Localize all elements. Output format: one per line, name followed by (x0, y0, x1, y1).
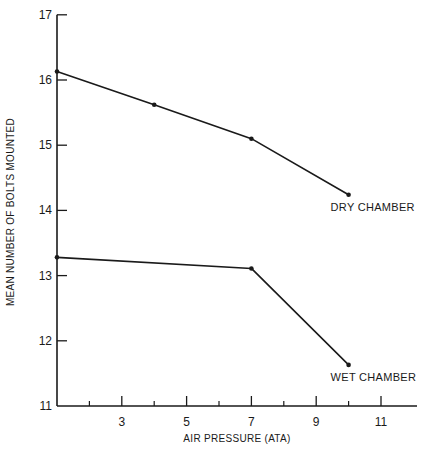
data-point-marker (346, 192, 351, 197)
chart-canvas: 11121314151617357911 DRY CHAMBERWET CHAM… (0, 0, 429, 452)
series-dry-chamber: DRY CHAMBER (55, 69, 415, 213)
data-point-marker (55, 255, 60, 260)
line-chart: 11121314151617357911 DRY CHAMBERWET CHAM… (0, 0, 429, 452)
data-point-marker (55, 69, 60, 74)
y-tick-label: 12 (39, 334, 53, 348)
y-axis-title: MEAN NUMBER OF BOLTS MOUNTED (5, 118, 16, 306)
data-point-marker (346, 363, 351, 368)
series-line (57, 257, 349, 365)
x-tick-label: 11 (375, 415, 388, 429)
x-axis-title: AIR PRESSURE (ATA) (183, 433, 290, 444)
x-tick-label: 3 (118, 415, 125, 429)
y-tick-label: 13 (39, 269, 53, 283)
series-label: DRY CHAMBER (331, 201, 415, 213)
x-tick-label: 5 (183, 415, 190, 429)
series-wet-chamber: WET CHAMBER (55, 255, 417, 383)
y-tick-label: 17 (39, 8, 53, 22)
data-point-marker (249, 136, 254, 141)
axes: 11121314151617357911 (39, 8, 417, 429)
y-tick-label: 11 (40, 399, 53, 413)
series-line (57, 72, 349, 195)
y-tick-label: 15 (39, 138, 53, 152)
x-tick-label: 9 (313, 415, 320, 429)
x-tick-label: 7 (248, 415, 255, 429)
series-label: WET CHAMBER (331, 371, 417, 383)
data-point-marker (249, 266, 254, 271)
y-tick-label: 16 (39, 73, 53, 87)
data-point-marker (152, 102, 157, 107)
y-tick-label: 14 (39, 203, 53, 217)
series-layer: DRY CHAMBERWET CHAMBER (55, 69, 417, 383)
